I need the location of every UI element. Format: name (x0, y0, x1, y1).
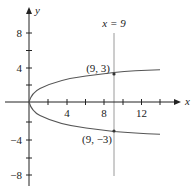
y-tick-label-4: 4 (17, 62, 23, 74)
point-9-3 (112, 72, 115, 75)
vline-label: x = 9 (101, 17, 126, 29)
y-tick-label-8: 8 (17, 27, 23, 39)
parabola-chart: 4 8 12 x 8 4 −4 −8 y x = 9 (9, 3) (9, −3… (0, 0, 196, 192)
x-tick-label-8: 8 (101, 107, 107, 119)
y-axis: 8 4 −4 −8 y (10, 4, 40, 186)
x-axis-label: x (184, 95, 190, 107)
point-upper-label: (9, 3) (86, 62, 110, 75)
x-axis: 4 8 12 x (5, 95, 190, 119)
y-tick-label-m4: −4 (10, 134, 22, 146)
y-axis-label: y (34, 4, 40, 16)
x-tick-label-12: 12 (136, 107, 147, 119)
point-9-neg3 (112, 129, 115, 132)
point-lower-label: (9, −3) (82, 133, 112, 146)
x-axis-arrow-icon (174, 99, 181, 105)
curve-upper (29, 70, 160, 102)
y-axis-arrow-icon (26, 7, 32, 14)
y-tick-label-m8: −8 (10, 169, 22, 181)
x-tick-label-4: 4 (64, 107, 70, 119)
